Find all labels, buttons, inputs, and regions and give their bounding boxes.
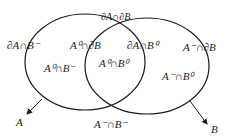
label-intA-boundaryB: A⁰∩∂B	[70, 40, 101, 51]
label-intA-intB: A⁰∩B⁰	[99, 58, 128, 69]
label-boundaryA-extB: ∂A∩B⁻	[7, 40, 40, 51]
label-extA-extB: A⁻∩B⁻	[94, 119, 127, 130]
label-boundaryA-intB: ∂A∩B⁰	[127, 40, 158, 51]
label-extA-boundaryB: A⁻∩∂B	[183, 42, 216, 53]
label-extA-intB: A⁻∩B⁰	[162, 71, 193, 82]
arrow-a	[27, 99, 42, 114]
label-boundaryA-boundaryB: ∂A∩∂B	[101, 12, 130, 22]
set-label-a: A	[16, 117, 23, 128]
set-label-b: B	[211, 124, 218, 135]
arrow-b	[190, 101, 207, 124]
venn-diagram: ∂A∩∂B ∂A∩B⁻ A⁰∩∂B ∂A∩B⁰ A⁻∩∂B A⁰∩B⁻ A⁰∩B…	[0, 0, 233, 139]
label-intA-extB: A⁰∩B⁻	[44, 63, 75, 74]
